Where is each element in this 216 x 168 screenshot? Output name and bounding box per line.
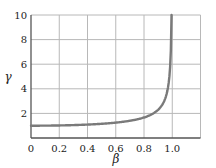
y-tick-label: 6 (21, 59, 27, 70)
gamma-vs-beta-chart: 0.20.40.60.81.0 246810 β γ 0 (0, 0, 216, 168)
y-tick-label: 8 (21, 34, 27, 45)
origin-tick-label: 0 (28, 143, 34, 154)
grid-lines (31, 15, 201, 138)
y-axis-ticks: 246810 (14, 10, 27, 119)
x-tick-label: 0.2 (51, 143, 67, 154)
y-axis-label: γ (4, 70, 12, 84)
gamma-curve (31, 15, 172, 126)
y-tick-label: 10 (14, 10, 27, 21)
x-axis-label: β (112, 152, 120, 166)
x-tick-label: 0.8 (136, 143, 152, 154)
y-tick-label: 4 (21, 83, 27, 94)
y-tick-label: 2 (21, 108, 27, 119)
data-series (31, 15, 172, 126)
x-tick-label: 1.0 (164, 143, 180, 154)
x-tick-label: 0.4 (80, 143, 96, 154)
